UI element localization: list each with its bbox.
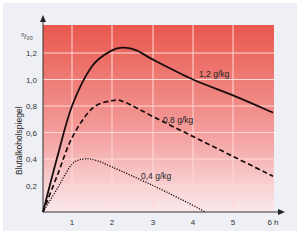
y-axis-label: Blutalkoholspiegel [14, 106, 24, 175]
x-tick-label: 1 [70, 218, 75, 227]
x-tick-label: 3 [151, 218, 156, 227]
y-tick-label: 1,2 [26, 49, 38, 58]
series-label-0-8: 0,8 g/kg [163, 115, 194, 125]
series-label-0-4: 0,4 g/kg [141, 171, 172, 181]
y-tick-label: 0,6 [26, 129, 38, 138]
x-tick-label: 5 [231, 218, 236, 227]
blood-alcohol-chart: 123456 h0,20,40,60,81,01,2 ⁰/₀₀ Blutalko… [0, 0, 303, 237]
y-tick-label: 0,4 [26, 155, 38, 164]
y-axis-arrow-icon [40, 15, 46, 22]
y-tick-label: 0,8 [26, 102, 38, 111]
x-tick-label: 4 [191, 218, 196, 227]
y-unit: ⁰/₀₀ [21, 32, 33, 41]
x-axis-arrow-icon [278, 209, 285, 215]
x-tick-label: 6 h [267, 218, 278, 227]
series-label-1-2: 1,2 g/kg [199, 69, 230, 79]
y-tick-label: 0,2 [26, 182, 38, 191]
y-tick-label: 1,0 [26, 76, 38, 85]
x-tick-label: 2 [110, 218, 115, 227]
